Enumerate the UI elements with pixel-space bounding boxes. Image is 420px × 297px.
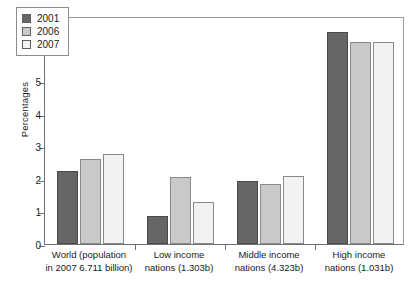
bar-2006-group-1 <box>80 159 101 244</box>
bar-2007-group-1 <box>103 154 124 244</box>
legend-label: 2006 <box>37 27 59 37</box>
bar-2006-group-3 <box>260 184 281 244</box>
legend-item: 2001 <box>22 12 59 25</box>
x-axis-label: World (populationin 2007 6.711 billion) <box>44 249 134 274</box>
legend-label: 2001 <box>37 14 59 24</box>
legend-item: 2006 <box>22 25 59 38</box>
legend-label: 2007 <box>37 40 59 50</box>
bar-2007-group-3 <box>283 176 304 244</box>
bar-chart-figure: Percentages 01234567 World (populationin… <box>0 0 420 297</box>
bar-2007-group-4 <box>373 42 394 244</box>
legend-swatch-2006-icon <box>22 27 31 36</box>
y-tick-label: 5 <box>35 78 41 88</box>
bar-2001-group-2 <box>147 216 168 244</box>
y-tick-label: 1 <box>35 208 41 218</box>
legend-swatch-2001-icon <box>22 14 31 23</box>
bar-2006-group-2 <box>170 177 191 244</box>
x-axis-label: Low incomenations (1.303b) <box>134 249 224 274</box>
plot-area: 01234567 <box>44 17 404 245</box>
bar-2001-group-1 <box>57 171 78 244</box>
x-axis-label: High incomenations (1.031b) <box>314 249 404 274</box>
x-axis-label: Middle incomenations (4.323b) <box>224 249 314 274</box>
legend: 2001 2006 2007 <box>16 7 69 56</box>
y-tick-label: 0 <box>35 241 41 251</box>
legend-swatch-2007-icon <box>22 40 31 49</box>
legend-item: 2007 <box>22 38 59 51</box>
bar-2006-group-4 <box>350 42 371 244</box>
bar-2001-group-3 <box>237 181 258 245</box>
bar-2007-group-2 <box>193 202 214 244</box>
y-tick-label: 3 <box>35 143 41 153</box>
y-tick-label: 4 <box>35 111 41 121</box>
y-tick-label: 2 <box>35 176 41 186</box>
bar-2001-group-4 <box>327 32 348 244</box>
